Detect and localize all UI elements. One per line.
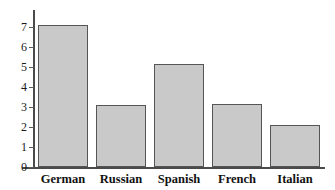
y-axis-tick-label: 5 bbox=[13, 61, 27, 73]
y-axis-tick-label-text: 2 bbox=[13, 121, 27, 133]
bar bbox=[270, 125, 320, 167]
y-axis-tick bbox=[29, 67, 34, 68]
bar bbox=[154, 64, 204, 167]
y-axis-tick bbox=[29, 27, 34, 28]
y-axis-tick-label: 0 bbox=[13, 161, 27, 173]
y-axis-tick-label: 4 bbox=[13, 81, 27, 93]
y-axis-tick bbox=[29, 107, 34, 108]
y-axis-tick bbox=[29, 147, 34, 148]
y-axis-tick-label-text: 4 bbox=[13, 81, 27, 93]
y-axis-line bbox=[33, 10, 35, 168]
y-axis-tick-label: 3 bbox=[13, 101, 27, 113]
y-axis-tick-label-text: 1 bbox=[13, 141, 27, 153]
y-axis-tick bbox=[29, 127, 34, 128]
y-axis-tick-label: 1 bbox=[13, 141, 27, 153]
x-axis-category-label: Italian bbox=[261, 172, 329, 186]
y-axis-tick-label-text: 3 bbox=[13, 101, 27, 113]
y-axis-tick-label-text: 5 bbox=[13, 61, 27, 73]
y-axis-tick-label: 6 bbox=[13, 41, 27, 53]
y-axis-tick-label: 2 bbox=[13, 121, 27, 133]
bar bbox=[96, 105, 146, 167]
bar-chart: 01234567 GermanRussianSpanishFrenchItali… bbox=[0, 0, 335, 190]
y-axis-tick bbox=[29, 87, 34, 88]
y-axis-tick-label-text: 6 bbox=[13, 41, 27, 53]
bar bbox=[212, 104, 262, 167]
y-axis-tick-label: 7 bbox=[13, 21, 27, 33]
y-axis-tick bbox=[29, 47, 34, 48]
y-axis-tick-label-text: 7 bbox=[13, 21, 27, 33]
y-axis-tick-label-text: 0 bbox=[13, 161, 27, 173]
x-axis-line bbox=[22, 167, 325, 169]
y-axis-tick bbox=[29, 167, 34, 168]
bar bbox=[38, 25, 88, 167]
